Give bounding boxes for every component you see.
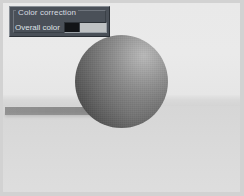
panel-title: Color correction [16,8,78,17]
shaded-sphere[interactable] [75,35,168,128]
swatch-secondary-color[interactable] [80,23,106,32]
color-correction-panel[interactable]: Color correction Overall color [9,6,110,37]
overall-color-swatch[interactable] [64,22,107,33]
swatch-primary-color[interactable] [65,23,80,32]
overall-color-row[interactable]: Overall color [15,20,107,34]
screenshot-root: Color correction Overall color [0,0,244,196]
render-window-frame: Color correction Overall color [0,0,244,196]
overall-color-label: Overall color [15,23,60,32]
